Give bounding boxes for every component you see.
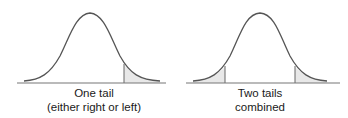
two-tails-caption: Two tails combined [190, 86, 330, 114]
normal-curve [24, 13, 160, 81]
two-tails-diagram [186, 13, 340, 83]
normal-curve [193, 13, 327, 81]
one-tail-caption: One tail (either right or left) [24, 86, 164, 114]
caption-line-2: (either right or left) [24, 100, 164, 114]
one-tail-diagram [17, 13, 166, 83]
caption-line-1: Two tails [190, 86, 330, 100]
caption-line-1: One tail [24, 86, 164, 100]
caption-line-2: combined [190, 100, 330, 114]
